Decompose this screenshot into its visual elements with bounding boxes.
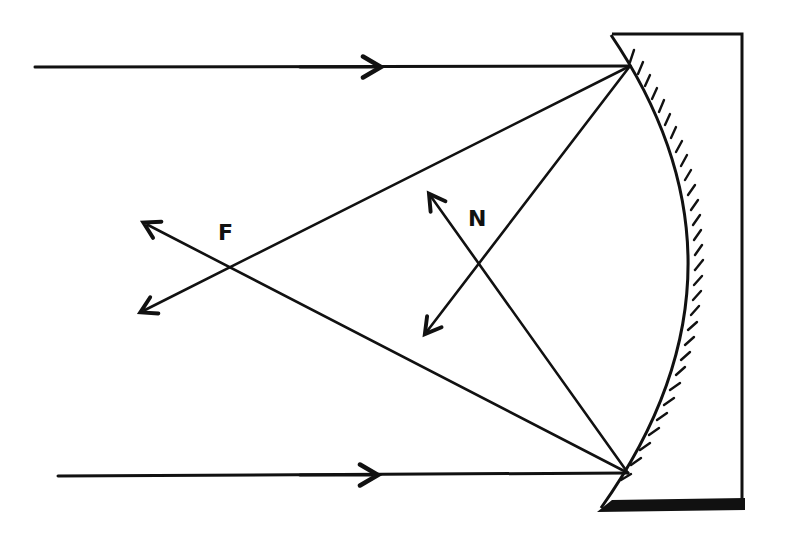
normal-label: N bbox=[468, 206, 486, 231]
upper-reflected-ray bbox=[145, 66, 630, 310]
focus-label: F bbox=[218, 220, 233, 245]
mirror-base bbox=[597, 498, 745, 512]
mirror bbox=[597, 34, 745, 512]
upper-point-line bbox=[428, 66, 630, 330]
mirror-hatching bbox=[621, 50, 703, 480]
mirror-frame bbox=[612, 34, 742, 507]
concave-mirror-diagram bbox=[0, 0, 786, 542]
normal-line bbox=[432, 198, 628, 473]
lower-reflected-ray bbox=[148, 225, 628, 473]
mirror-reflective-surface bbox=[601, 35, 688, 508]
